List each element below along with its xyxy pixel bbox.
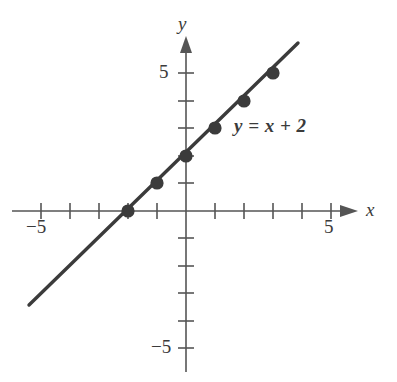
x-tick-label-pos5: 5 [324, 217, 334, 236]
x-tick-label-neg5: −5 [26, 217, 46, 236]
plot-canvas [0, 0, 397, 382]
x-axis-label: x [366, 200, 374, 219]
line-series-y-equals-x-plus-2 [29, 43, 298, 305]
x-axis-arrow-icon [340, 205, 358, 217]
y-tick-label-pos5: 5 [159, 62, 169, 81]
y-axis-label: y [178, 14, 186, 33]
y-tick-label-neg5: −5 [151, 337, 171, 356]
data-point [266, 66, 279, 79]
data-point-markers [121, 66, 279, 217]
data-point [121, 204, 134, 217]
y-axis-arrow-icon [180, 36, 192, 53]
data-point [179, 149, 192, 162]
data-point [150, 176, 163, 189]
equation-annotation: y = x + 2 [234, 116, 307, 135]
data-point [237, 94, 250, 107]
data-point [208, 121, 221, 134]
graph-figure: y x −5 5 5 −5 y = x + 2 [0, 0, 397, 382]
